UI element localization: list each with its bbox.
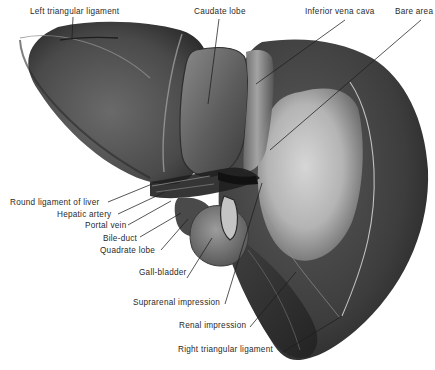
liver-drawing (0, 0, 435, 370)
label-portal-vein: Portal vein (85, 222, 126, 230)
label-gall-bladder: Gall-bladder (139, 269, 187, 277)
leader-portal-vein (128, 201, 171, 225)
caudate-lobe-shape (180, 48, 248, 177)
label-hepatic-artery: Hepatic artery (57, 211, 111, 219)
label-bile-duct: Bile-duct (103, 235, 137, 243)
leader-bile-duct (140, 213, 181, 237)
label-right-triangular-ligament: Right triangular ligament (178, 346, 273, 354)
label-quadrate-lobe: Quadrate lobe (100, 247, 155, 255)
leader-quadrate-lobe (161, 219, 188, 250)
label-caudate-lobe: Caudate lobe (194, 8, 246, 16)
label-renal-impression: Renal impression (179, 322, 246, 330)
label-inferior-vena-cava: Inferior vena cava (305, 8, 375, 16)
liver-illustration: Left triangular ligament Caudate lobe In… (0, 0, 435, 370)
label-bare-area: Bare area (395, 8, 433, 16)
label-round-ligament-of-liver: Round ligament of liver (10, 199, 100, 207)
label-suprarenal-impression: Suprarenal impression (133, 299, 220, 307)
label-left-triangular-ligament: Left triangular ligament (30, 8, 119, 16)
